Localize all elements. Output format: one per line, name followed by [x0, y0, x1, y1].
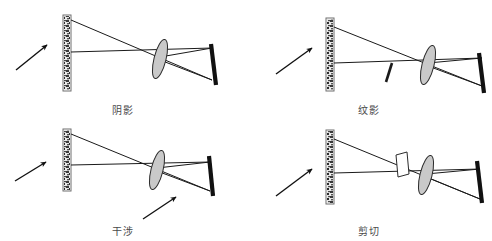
shearing-prism [396, 152, 409, 177]
panel-shadow-caption: 阴影 [0, 104, 246, 118]
panel-shearing: 剪切 [246, 121, 492, 241]
lens-ellipse [146, 149, 167, 191]
optical-diagram-figure: 阴影 [0, 0, 492, 241]
incoming-light-arrow [276, 169, 312, 196]
ray-refracted-lower [157, 171, 210, 191]
panel-interference-drawing [0, 121, 246, 241]
panel-schlieren-caption: 纹影 [246, 104, 492, 118]
ray-refracted-lower [428, 66, 482, 86]
screen-bar [477, 161, 482, 203]
incoming-light-arrow [16, 45, 47, 70]
panel-shearing-drawing [246, 121, 492, 241]
panel-schlieren-drawing [246, 0, 492, 120]
incoming-light-arrow [276, 48, 312, 74]
screen-bar [211, 44, 216, 85]
screen-bar [209, 156, 213, 196]
lens-ellipse [149, 38, 170, 80]
panel-shadow-drawing [0, 0, 246, 120]
knife-edge [386, 63, 392, 82]
panel-schlieren: 纹影 [246, 0, 492, 120]
screen-bar [479, 53, 484, 93]
lens-ellipse [417, 44, 438, 86]
ray-refracted-lower [160, 60, 212, 80]
object-bar-speckle [64, 130, 70, 190]
panel-interference: 干涉 [0, 121, 246, 241]
object-bar-speckle [327, 19, 333, 90]
ray-refracted-lower [426, 177, 480, 199]
panel-shadow: 阴影 [0, 0, 246, 120]
incoming-light-arrow [15, 162, 46, 181]
object-bar-speckle [64, 16, 70, 90]
object-bar-speckle [327, 131, 333, 203]
ray-upper [334, 27, 482, 86]
pointer-arrow [143, 197, 176, 219]
lens-ellipse [415, 154, 436, 196]
panel-shearing-caption: 剪切 [246, 225, 492, 239]
panel-interference-caption: 干涉 [0, 225, 246, 239]
